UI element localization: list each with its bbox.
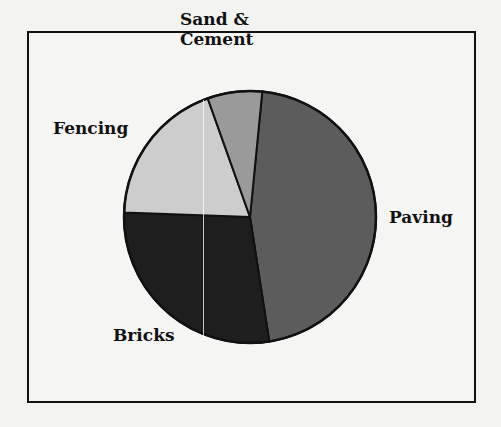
label-sand-cement: Sand & Cement xyxy=(180,9,253,49)
label-sand-cement-line2: Cement xyxy=(180,29,253,49)
pie-slice-bricks xyxy=(124,213,269,343)
scan-artifact-line xyxy=(203,100,204,340)
label-fencing: Fencing xyxy=(53,118,128,138)
label-bricks: Bricks xyxy=(113,325,174,345)
pie-slice-paving xyxy=(250,92,376,342)
label-paving: Paving xyxy=(389,207,453,227)
label-sand-cement-line1: Sand & xyxy=(180,9,253,29)
pie-slices xyxy=(124,91,376,343)
